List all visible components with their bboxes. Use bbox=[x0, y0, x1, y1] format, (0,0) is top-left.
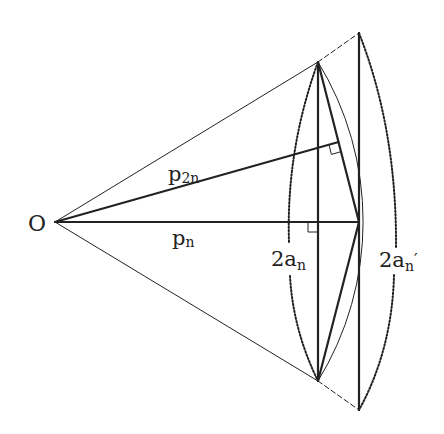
label-2an-prime-mark: ′ bbox=[414, 250, 418, 269]
dotted-arc-2an-prime-upper bbox=[359, 33, 396, 248]
dashed-extension-top bbox=[318, 33, 359, 62]
dashed-extension-bottom bbox=[318, 381, 359, 410]
label-p2n-sub: 2n bbox=[181, 170, 199, 186]
right-angle-marker-f bbox=[308, 222, 318, 232]
dotted-arc-2an-prime-lower bbox=[359, 275, 394, 410]
label-pn-sub: n bbox=[185, 234, 194, 250]
label-2an-sub: n bbox=[297, 257, 306, 273]
label-2an-coef: 2a bbox=[271, 247, 297, 271]
label-p2n: p2n bbox=[168, 162, 199, 186]
label-origin-o: O bbox=[28, 211, 46, 236]
geometry-diagram: O p2n pn 2an 2an′ bbox=[0, 0, 444, 434]
label-2an-prime: 2an′ bbox=[379, 248, 418, 274]
ray-oa bbox=[55, 62, 318, 222]
label-p2n-main: p bbox=[168, 162, 181, 186]
label-pn: pn bbox=[172, 226, 194, 250]
dotted-arc-2an-lower bbox=[290, 276, 318, 381]
label-2an: 2an bbox=[271, 247, 306, 273]
label-2an-prime-sub: n bbox=[405, 258, 414, 274]
label-pn-main: p bbox=[172, 226, 185, 250]
label-2an-prime-coef: 2a bbox=[379, 248, 405, 272]
